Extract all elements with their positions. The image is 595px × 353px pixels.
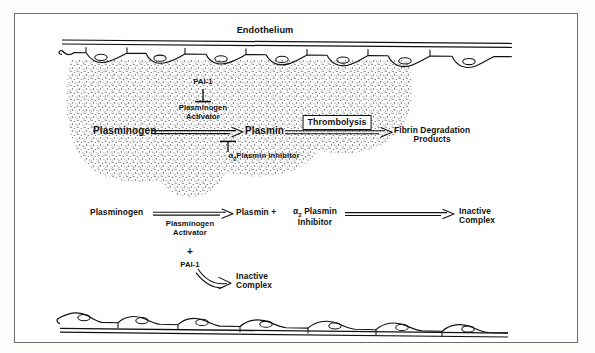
inactive-complex-label-2: Inactive Complex bbox=[236, 272, 272, 291]
alpha2-inhibitor-solution-line1: Plasmin bbox=[304, 206, 337, 216]
alpha2-inhibitor-solution-line2: Inhibitor bbox=[293, 218, 337, 227]
plus-sign-solution: + bbox=[187, 246, 193, 257]
pai1-label-solution: PAI-1 bbox=[180, 261, 199, 270]
alpha2-inhibitor-text: Plasmin Inhibitor bbox=[236, 151, 299, 160]
inactive-complex-1-line2: Complex bbox=[459, 215, 495, 225]
thrombolysis-label: Thrombolysis bbox=[303, 115, 372, 130]
plasminogen-activator-line2: Activator bbox=[186, 112, 220, 121]
plasminogen-label-clot: Plasminogen bbox=[93, 125, 156, 136]
fibrinolysis-diagram: Endothelium PAI-1 Plasminogen Activator … bbox=[0, 0, 595, 353]
plasmin-label-clot: Plasmin bbox=[245, 125, 284, 136]
plasminogen-label-solution: Plasminogen bbox=[90, 208, 143, 217]
plasmin-plus-label-solution: Plasmin + bbox=[236, 208, 276, 217]
figure-frame bbox=[14, 13, 578, 343]
inactive-complex-2-line2: Complex bbox=[236, 280, 272, 290]
inactive-complex-label-1: Inactive Complex bbox=[459, 207, 495, 226]
plasminogen-activator-label-clot: Plasminogen Activator bbox=[179, 104, 227, 121]
alpha2-plasmin-inhibitor-label: α2Plasmin Inhibitor bbox=[228, 152, 299, 162]
fibrin-degradation-products-label: Fibrin Degradation Products bbox=[394, 126, 470, 145]
pai1-inhibitor-label-clot: PAI-1 bbox=[193, 78, 212, 87]
alpha2-plasmin-inhibitor-label-solution: α2 Plasmin Inhibitor bbox=[293, 207, 337, 228]
thrombolysis-box: Thrombolysis bbox=[303, 111, 372, 129]
plasminogen-activator-solution-line2: Activator bbox=[173, 228, 207, 237]
fibrin-degradation-line2: Products bbox=[394, 135, 470, 144]
plasminogen-activator-label-solution: Plasminogen Activator bbox=[166, 220, 214, 237]
endothelium-label: Endothelium bbox=[237, 25, 294, 35]
